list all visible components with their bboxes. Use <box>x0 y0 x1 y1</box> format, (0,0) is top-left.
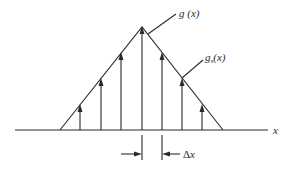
x-axis-label: x <box>272 124 278 136</box>
arrowhead-icon <box>160 52 165 60</box>
spacing-arrowhead-left-icon <box>162 152 170 157</box>
impulse-arrowheads <box>78 26 205 157</box>
spacing-arrowhead-right-icon <box>134 152 142 157</box>
arrowhead-icon <box>99 78 104 86</box>
gs-leader-line <box>182 60 203 78</box>
g-label: g (x) <box>179 7 200 20</box>
sampling-diagram: g (x) gs(x) x Δx <box>0 0 289 170</box>
arrowhead-icon <box>78 104 83 112</box>
delta-x-label: Δx <box>183 148 195 160</box>
gs-label: gs(x) <box>205 51 226 65</box>
g-leader-line <box>148 14 176 34</box>
